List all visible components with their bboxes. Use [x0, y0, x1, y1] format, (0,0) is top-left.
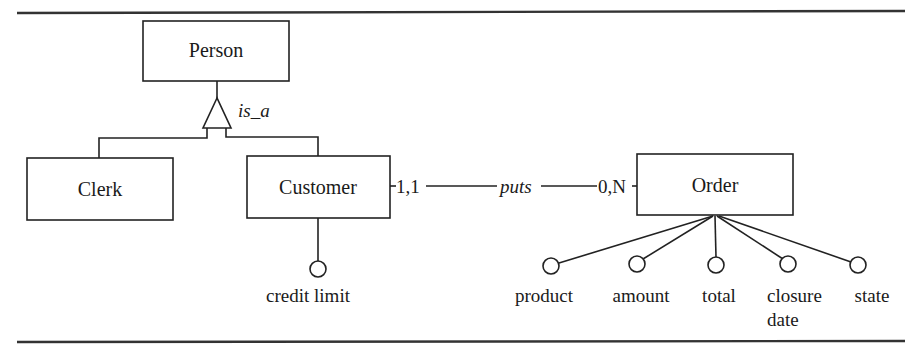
entity-clerk: Clerk — [27, 158, 173, 220]
order-attributes: product amount total closure date state — [515, 216, 889, 330]
er-diagram: Person is_a Clerk Customer credit limit … — [0, 0, 913, 354]
entity-order: Order — [637, 154, 793, 215]
entity-person: Person — [143, 21, 289, 81]
entity-person-label: Person — [189, 39, 243, 61]
attribute-label: state — [855, 285, 890, 306]
is-a-label: is_a — [238, 100, 270, 121]
right-cardinality: 0,N — [598, 176, 626, 197]
attribute-state: state — [850, 257, 889, 306]
attribute-label: total — [702, 285, 736, 306]
attribute-circle-icon — [543, 258, 559, 274]
generalization-triangle-icon — [203, 98, 231, 128]
attribute-label: closure — [767, 285, 822, 306]
attribute-circle-icon — [850, 257, 866, 273]
relationship-puts: 1,1 puts 0,N — [390, 176, 637, 197]
attribute-closure-date: closure date — [767, 256, 822, 330]
attribute-label-line2: date — [767, 309, 799, 330]
attribute-product: product — [515, 258, 574, 306]
attribute-total: total — [702, 257, 736, 306]
attribute-label: credit limit — [266, 285, 351, 306]
top-rule — [17, 11, 905, 13]
attribute-label: product — [515, 285, 574, 306]
attribute-credit-limit: credit limit — [266, 218, 351, 306]
relationship-label: puts — [498, 176, 532, 197]
left-cardinality: 1,1 — [396, 176, 420, 197]
attribute-label: amount — [613, 285, 671, 306]
entity-customer: Customer — [247, 156, 390, 218]
attribute-circle-icon — [780, 256, 796, 272]
attribute-amount: amount — [613, 256, 671, 306]
is-a-generalization: is_a — [99, 81, 318, 158]
bottom-rule — [17, 341, 905, 342]
entity-customer-label: Customer — [279, 176, 357, 198]
attribute-circle-icon — [310, 261, 326, 277]
entity-order-label: Order — [692, 174, 739, 196]
attribute-circle-icon — [629, 256, 645, 272]
attribute-circle-icon — [708, 257, 724, 273]
entity-clerk-label: Clerk — [78, 178, 122, 200]
